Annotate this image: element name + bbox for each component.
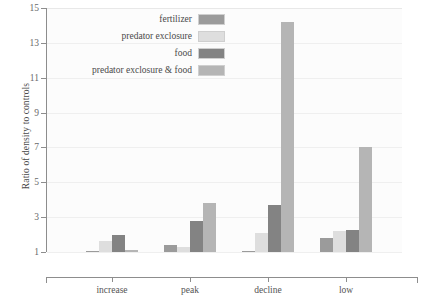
legend-color-swatch: [198, 14, 225, 25]
bar-chart-figure: Ratio of density to controls 13579111315…: [0, 0, 422, 302]
gridline: [47, 113, 402, 114]
bar: [177, 247, 190, 252]
bar: [333, 231, 346, 252]
x-axis-end-cap: [46, 277, 47, 283]
bar: [281, 22, 294, 252]
y-axis-tick-label: 9: [5, 108, 39, 118]
legend-item-label: food: [175, 48, 192, 58]
bar: [320, 238, 333, 252]
x-axis-end-cap: [417, 277, 418, 283]
legend-item-label: fertilizer: [159, 14, 192, 24]
y-axis-tick-label: 11: [5, 73, 39, 83]
y-axis-tick-label: 7: [5, 142, 39, 152]
x-axis-tick: [190, 277, 191, 282]
x-axis-tick: [346, 277, 347, 282]
y-axis-tick: [41, 252, 46, 253]
x-axis-tick-label: peak: [181, 285, 199, 295]
x-axis-line: [46, 277, 417, 278]
y-axis-tick-label: 1: [5, 247, 39, 257]
y-axis-ticks: 13579111315: [0, 0, 39, 302]
gridline: [47, 147, 402, 148]
legend-item: predator exclosure & food: [60, 62, 225, 78]
legend-color-swatch: [198, 31, 225, 42]
legend-item-label: predator exclosure & food: [92, 65, 192, 75]
bar: [99, 241, 112, 252]
y-axis-tick: [41, 147, 46, 148]
y-axis-tick: [41, 182, 46, 183]
x-axis-tick-label: increase: [96, 285, 127, 295]
y-axis-tick-label: 5: [5, 177, 39, 187]
y-axis-tick-label: 3: [5, 212, 39, 222]
bar: [190, 221, 203, 252]
legend-item: food: [60, 45, 225, 61]
x-axis-tick-label: low: [339, 285, 353, 295]
bar: [203, 203, 216, 252]
bar: [112, 235, 125, 252]
bar: [346, 230, 359, 252]
x-axis-tick: [268, 277, 269, 282]
legend-item-label: predator exclosure: [122, 31, 192, 41]
y-axis-tick: [41, 8, 46, 9]
y-axis-tick-label: 15: [5, 3, 39, 13]
bar: [164, 245, 177, 252]
legend-color-swatch: [198, 65, 225, 76]
bar: [242, 251, 255, 252]
bar: [359, 147, 372, 252]
bar: [268, 205, 281, 252]
y-axis-tick: [41, 217, 46, 218]
y-axis-line: [46, 8, 47, 252]
y-axis-tick: [41, 113, 46, 114]
x-axis-tick-label: decline: [254, 285, 281, 295]
x-axis-tick: [112, 277, 113, 282]
gridline: [47, 252, 402, 253]
bar: [255, 233, 268, 252]
y-axis-tick: [41, 43, 46, 44]
bar: [86, 251, 99, 252]
gridline: [47, 182, 402, 183]
y-axis-tick-label: 13: [5, 38, 39, 48]
legend-color-swatch: [198, 48, 225, 59]
legend: fertilizerpredator exclosurefoodpredator…: [60, 11, 225, 79]
legend-item: predator exclosure: [60, 28, 225, 44]
bar: [125, 250, 138, 252]
legend-item: fertilizer: [60, 11, 225, 27]
gridline: [47, 8, 402, 9]
gridline: [47, 217, 402, 218]
y-axis-tick: [41, 78, 46, 79]
